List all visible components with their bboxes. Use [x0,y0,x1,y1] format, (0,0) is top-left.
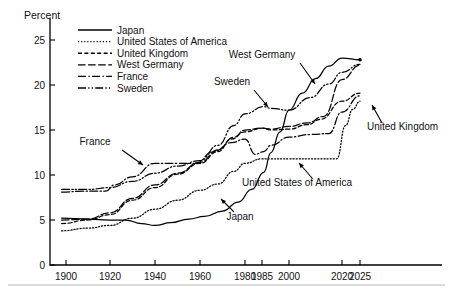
annotation-label: France [79,136,111,147]
annotation-label: United Kingdom [367,121,438,132]
x-tick-label: 1940 [144,271,167,282]
legend-label: France [117,71,149,82]
annotation-label: United States of America [242,177,352,188]
legend-label: United States of America [117,36,227,47]
chart-figure: 0510152025 19001920194019601980198520002… [0,0,453,296]
series-endpoint-marker [358,58,362,62]
y-tick-label: 25 [34,35,46,46]
x-tick-label: 2025 [349,271,372,282]
annotation-label: Japan [226,211,253,222]
y-tick-label: 20 [34,80,46,91]
annotation-label: Sweden [214,76,250,87]
y-axis-label: Percent [24,9,60,21]
legend-label: Japan [117,25,144,36]
y-tick-label: 0 [39,260,45,271]
x-tick-label: 1960 [189,271,212,282]
line-chart-canvas: 0510152025 19001920194019601980198520002… [0,0,453,296]
y-tick-label: 15 [34,125,46,136]
legend-label: United Kingdom [117,48,188,59]
x-tick-label: 1985 [251,271,274,282]
annotation-label: West Germany [229,49,296,60]
legend-label: Sweden [117,83,153,94]
legend-label: West Germany [117,59,184,70]
x-tick-label: 1920 [99,271,122,282]
x-tick-label: 1900 [55,271,78,282]
x-tick-label: 2000 [278,271,301,282]
y-tick-label: 10 [34,170,46,181]
y-tick-label: 5 [39,215,45,226]
